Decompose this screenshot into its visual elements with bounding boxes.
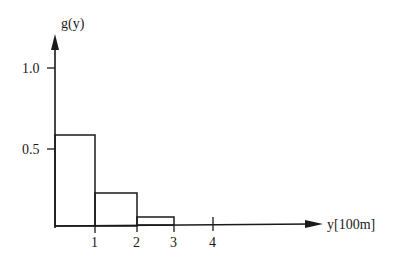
x-tick-label-4: 4 [209,235,216,250]
histogram-bar-1-2 [95,193,137,226]
histogram-bar-0-1 [55,135,95,226]
x-tick-label-1: 1 [91,235,98,250]
histogram-chart: g(y) 1.0 0.5 1 2 3 4 y[100m] [0,0,400,263]
histogram-bar-2-3 [137,217,174,225]
y-tick-label-1-0: 1.0 [22,61,40,76]
y-tick-label-0-5: 0.5 [22,142,40,157]
y-axis-label: g(y) [61,16,85,32]
x-axis-arrow-icon [305,220,323,228]
x-tick-label-3: 3 [170,235,177,250]
x-axis-label: y[100m] [327,217,375,232]
y-axis-arrow-icon [51,34,59,50]
x-tick-label-2: 2 [133,235,140,250]
